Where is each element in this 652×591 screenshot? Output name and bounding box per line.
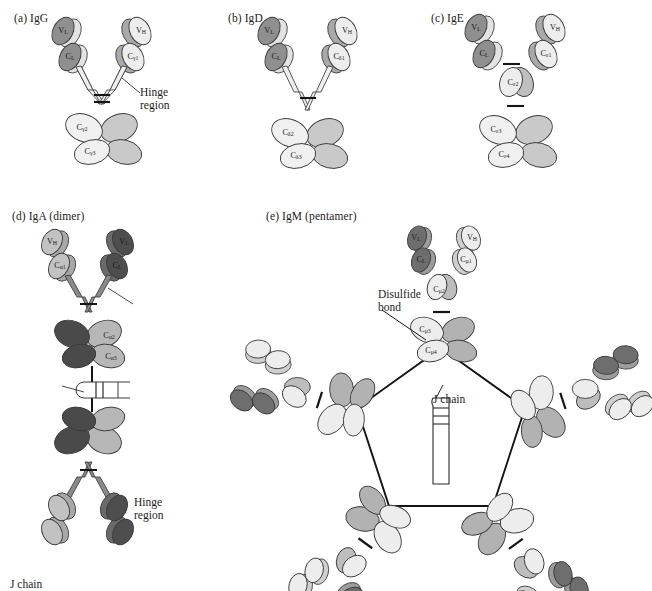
igm-disulfide-bond-callout: Disulfide bond — [378, 288, 421, 314]
ige-structure: VL CL VH Cε1 Cε2 Cε3 Cε4 — [423, 0, 652, 190]
igg-structure: VL CL VH Cγ1 Cγ2 Cγ3 — [0, 0, 218, 190]
igm-j-chain-shape — [432, 398, 449, 484]
igm-structure: VL CL VH Cμ1 Cμ2 Cμ3 Cμ4 — [230, 200, 652, 575]
panel-igm: (e) IgM (pentamer) — [230, 200, 652, 575]
panel-igg: (a) IgG — [0, 0, 218, 190]
igm-subunit-upper-left — [223, 332, 383, 452]
iga-hinge-region-callout: Hinge region — [134, 496, 163, 522]
igm-subunit-lower-right — [450, 479, 598, 591]
iga-hinge-leader — [108, 288, 133, 304]
panel-igg-title: (a) IgG — [14, 12, 48, 24]
igg-hinge-region-callout: Hinge region — [140, 86, 169, 112]
igm-subunit-upper-right — [501, 338, 652, 458]
igm-j-chain-callout: J chain — [433, 393, 465, 406]
panel-iga-title: (d) IgA (dimer) — [12, 210, 84, 222]
igd-structure: VL CL VH Cδ1 Cδ2 Cδ3 — [218, 0, 423, 190]
panel-iga: (d) IgA (dimer) — [0, 200, 230, 575]
igg-hinge-leader — [122, 78, 140, 93]
igm-subunit-lower-left — [279, 475, 427, 591]
iga-structure: VH Cα1 VL CL Cα2 Cα3 — [0, 200, 230, 575]
panel-ige-title: (c) IgE — [431, 12, 464, 24]
panel-igd: (b) IgD — [218, 0, 423, 190]
panel-ige: (c) IgE — [423, 0, 652, 190]
panel-igm-title: (e) IgM (pentamer) — [266, 210, 357, 222]
iga-j-chain-callout: J chain — [10, 578, 42, 591]
panel-igd-title: (b) IgD — [228, 12, 263, 24]
